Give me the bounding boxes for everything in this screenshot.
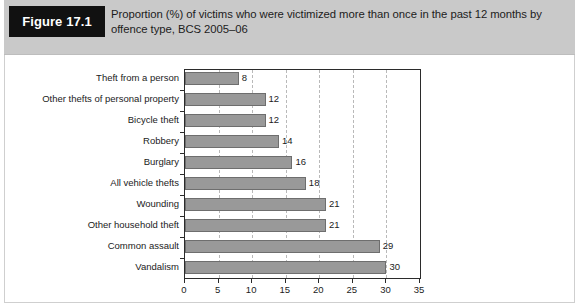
figure-header-band: Figure 17.1 Proportion (%) of victims wh… <box>4 0 575 55</box>
figure-number-tag: Figure 17.1 <box>9 6 105 37</box>
chart-panel <box>4 55 575 303</box>
figure-caption: Proportion (%) of victims who were victi… <box>111 7 566 37</box>
figure-container: Figure 17.1 Proportion (%) of victims wh… <box>0 0 579 308</box>
